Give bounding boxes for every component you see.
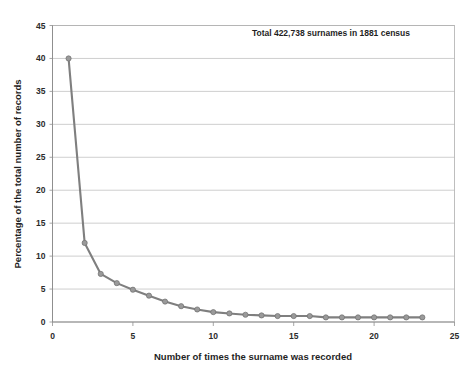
data-point-marker xyxy=(130,287,135,292)
data-point-marker xyxy=(243,312,248,317)
data-point-marker xyxy=(195,307,200,312)
data-point-marker xyxy=(275,313,280,318)
y-tick-label: 20 xyxy=(36,185,46,195)
data-point-marker xyxy=(227,311,232,316)
data-point-marker xyxy=(404,315,409,320)
y-tick-label: 35 xyxy=(36,86,46,96)
y-tick-label: 30 xyxy=(36,119,46,129)
y-tick-label: 0 xyxy=(41,317,46,327)
data-point-marker xyxy=(211,310,216,315)
chart-container: 051015202530354045 0510152025 Total 422,… xyxy=(0,0,475,379)
data-point-marker xyxy=(307,313,312,318)
y-tick-label: 25 xyxy=(36,152,46,162)
data-point-marker xyxy=(146,293,151,298)
x-tick-label: 5 xyxy=(131,331,136,341)
x-tick-label: 25 xyxy=(450,331,460,341)
x-tick-label: 10 xyxy=(209,331,219,341)
y-tick-label: 40 xyxy=(36,53,46,63)
x-tick-label: 20 xyxy=(369,331,379,341)
y-tick-label: 5 xyxy=(41,284,46,294)
data-point-marker xyxy=(179,304,184,309)
data-point-marker xyxy=(388,315,393,320)
data-point-marker xyxy=(114,281,119,286)
chart-annotation: Total 422,738 surnames in 1881 census xyxy=(252,28,410,38)
x-tick-label: 15 xyxy=(289,331,299,341)
y-axis-title: Percentage of the total number of record… xyxy=(12,80,23,269)
data-point-marker xyxy=(82,240,87,245)
data-point-marker xyxy=(323,315,328,320)
data-point-marker xyxy=(259,313,264,318)
data-point-marker xyxy=(355,315,360,320)
y-tick-label: 10 xyxy=(36,251,46,261)
x-axis-title: Number of times the surname was recorded xyxy=(154,351,352,362)
data-point-marker xyxy=(291,313,296,318)
data-point-marker xyxy=(372,315,377,320)
y-tick-label: 45 xyxy=(36,21,46,31)
data-point-marker xyxy=(339,315,344,320)
data-point-marker xyxy=(162,299,167,304)
y-tick-label: 15 xyxy=(36,218,46,228)
data-point-marker xyxy=(66,56,71,61)
surname-frequency-chart: 051015202530354045 0510152025 Total 422,… xyxy=(0,0,475,379)
data-point-marker xyxy=(420,315,425,320)
data-point-marker xyxy=(98,271,103,276)
x-tick-label: 0 xyxy=(50,331,55,341)
